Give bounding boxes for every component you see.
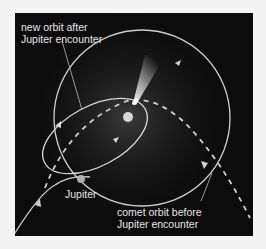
orbit-diagram [15,13,253,236]
comet-head [132,101,136,105]
new-orbit-label-line1: new orbit after [21,21,102,33]
new-orbit-label-line2: Jupiter encounter [21,33,102,45]
jupiter-label: Jupiter [65,188,97,200]
jupiter-planet [77,175,85,183]
comet-orbit-label-line2: Jupiter encounter [117,218,202,230]
new-orbit-label: new orbit after Jupiter encounter [21,21,102,45]
diagram-panel: new orbit after Jupiter encounter Jupite… [15,13,253,236]
comet-orbit-label: comet orbit before Jupiter encounter [117,206,202,230]
comet-orbit-label-line1: comet orbit before [117,206,202,218]
sun [123,112,133,122]
